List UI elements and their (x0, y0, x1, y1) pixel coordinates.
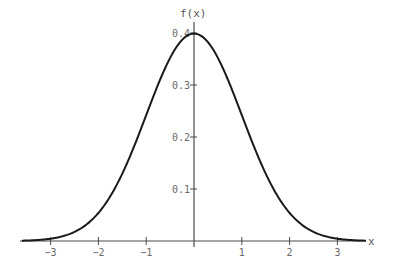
y-axis-label: f(x) (180, 7, 207, 20)
x-axis-label: x (368, 235, 375, 248)
axes: x f(x) (20, 7, 375, 248)
y-tick-label: 0.1 (172, 184, 190, 195)
x-tick-label: 3 (334, 247, 340, 258)
x-tick-label: −3 (45, 247, 57, 258)
x-ticks: −3−2−1123 (45, 237, 341, 258)
x-tick-label: −2 (92, 247, 104, 258)
y-tick-label: 0.3 (172, 80, 190, 91)
y-tick-label: 0.2 (172, 132, 190, 143)
normal-density-chart: x f(x) −3−2−1123 0.10.20.30.4 (0, 0, 393, 266)
x-tick-label: −1 (140, 247, 152, 258)
x-tick-label: 2 (287, 247, 293, 258)
y-tick-label: 0.4 (172, 28, 190, 39)
y-ticks: 0.10.20.30.4 (172, 28, 197, 195)
x-tick-label: 1 (239, 247, 245, 258)
